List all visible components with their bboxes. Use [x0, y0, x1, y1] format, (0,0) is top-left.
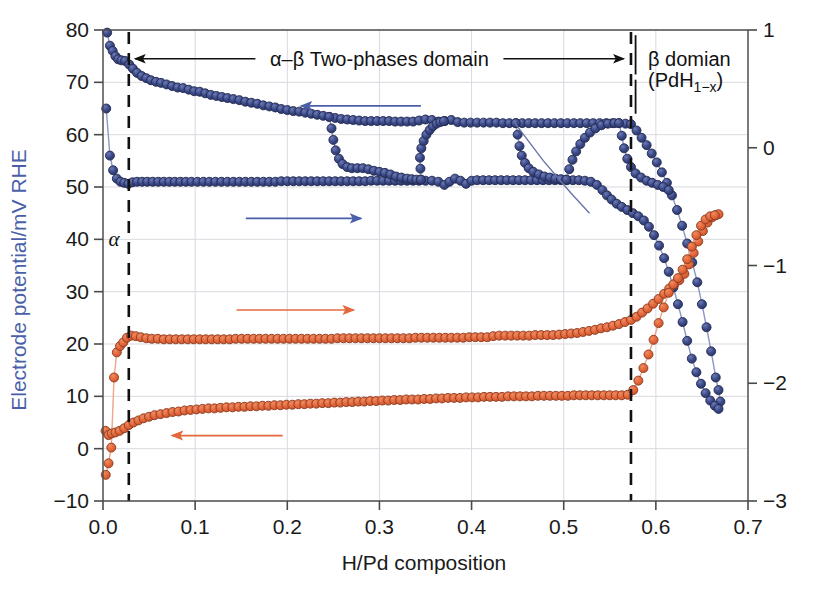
- data-point: [617, 131, 626, 140]
- data-point: [710, 211, 719, 220]
- y-tick-label-left: 30: [66, 280, 89, 303]
- data-point: [562, 175, 571, 184]
- x-tick-label: 0.6: [641, 515, 670, 538]
- y-tick-label-left: 0: [77, 437, 89, 460]
- data-point: [683, 336, 692, 345]
- data-point: [644, 222, 653, 231]
- data-point: [697, 300, 706, 309]
- data-point: [639, 364, 648, 373]
- data-point: [714, 386, 723, 395]
- x-tick-label: 0.3: [365, 515, 394, 538]
- x-tick-label: 0.2: [273, 515, 302, 538]
- data-point: [416, 164, 425, 173]
- data-point: [439, 117, 448, 126]
- data-point: [678, 318, 687, 327]
- data-point: [109, 166, 118, 175]
- y-tick-label-left: 70: [66, 70, 89, 93]
- data-point: [678, 265, 687, 274]
- y-tick-label-left: 80: [66, 18, 89, 41]
- data-point: [673, 274, 682, 283]
- y-tick-label-left: 10: [66, 384, 89, 407]
- data-point: [702, 323, 711, 332]
- data-point: [664, 267, 673, 276]
- data-point: [647, 149, 656, 158]
- data-point: [714, 404, 723, 413]
- data-point: [331, 146, 340, 155]
- data-point: [673, 206, 682, 215]
- alpha-region-label: α: [109, 227, 121, 251]
- y-tick-label-left: 40: [66, 227, 89, 250]
- data-point: [654, 319, 663, 328]
- data-point: [692, 231, 701, 240]
- data-point: [692, 368, 701, 377]
- y-tick-label-right: −1: [763, 254, 787, 277]
- data-point: [620, 144, 629, 153]
- y-tick-label-right: −3: [763, 489, 787, 512]
- data-point: [415, 153, 424, 162]
- data-point: [655, 241, 664, 250]
- data-point: [697, 379, 706, 388]
- data-point: [687, 354, 696, 363]
- data-point: [678, 221, 687, 230]
- y-axis-title-left: Electrode potential/mV RHE: [7, 149, 30, 410]
- data-point: [683, 255, 692, 264]
- y-tick-label-left: 20: [66, 332, 89, 355]
- data-point: [707, 347, 716, 356]
- data-point: [642, 141, 651, 150]
- data-point: [659, 303, 668, 312]
- data-point: [644, 350, 653, 359]
- y-tick-label-right: 0: [763, 136, 775, 159]
- data-point: [105, 151, 114, 160]
- x-tick-label: 0.0: [88, 515, 117, 538]
- y-tick-label-right: 1: [763, 18, 775, 41]
- data-point: [110, 373, 119, 382]
- beta-domain-label: β domian: [648, 48, 731, 70]
- data-point: [565, 165, 574, 174]
- x-tick-label: 0.5: [549, 515, 578, 538]
- data-point: [664, 186, 673, 195]
- data-point: [634, 376, 643, 385]
- y-tick-label-right: −2: [763, 371, 787, 394]
- data-point: [652, 158, 661, 167]
- data-point: [664, 288, 673, 297]
- data-point: [660, 254, 669, 263]
- alpha-beta-domain-label: α–β Two-phases domain: [270, 48, 489, 70]
- hysteresis-chart: −1001020304050607080−3−2−1010.00.10.20.3…: [0, 0, 820, 594]
- x-axis-title: H/Pd composition: [342, 551, 507, 574]
- y-tick-label-left: 60: [66, 123, 89, 146]
- data-point: [104, 459, 113, 468]
- y-tick-label-left: 50: [66, 175, 89, 198]
- data-point: [511, 119, 520, 128]
- data-point: [649, 335, 658, 344]
- data-point: [329, 135, 338, 144]
- data-point: [615, 119, 624, 128]
- x-tick-label: 0.4: [457, 515, 487, 538]
- data-point: [107, 443, 116, 452]
- data-point: [687, 242, 696, 251]
- figure-container: −1001020304050607080−3−2−1010.00.10.20.3…: [0, 0, 820, 594]
- data-point: [416, 175, 425, 184]
- data-point: [673, 300, 682, 309]
- x-tick-label: 0.7: [733, 515, 762, 538]
- data-point: [650, 231, 659, 240]
- data-point: [325, 112, 334, 121]
- data-point: [327, 124, 336, 133]
- data-point: [711, 373, 720, 382]
- data-point: [693, 278, 702, 287]
- data-point: [657, 168, 666, 177]
- x-tick-label: 0.1: [181, 515, 210, 538]
- y-tick-label-left: −10: [53, 489, 89, 512]
- data-point: [568, 155, 577, 164]
- data-point: [515, 142, 524, 151]
